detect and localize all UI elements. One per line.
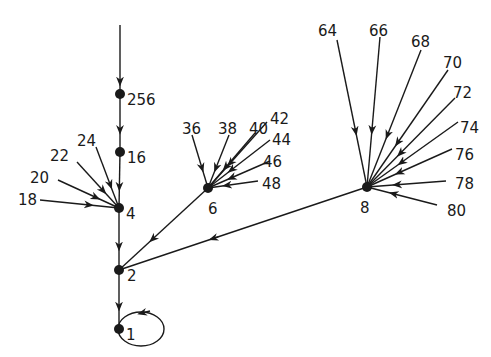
label-72: 72 (453, 84, 472, 102)
label-38: 38 (218, 120, 237, 138)
edges-layer (40, 25, 458, 329)
arrow-icon (102, 190, 103, 191)
label-80: 80 (447, 202, 466, 220)
label-18: 18 (18, 191, 37, 209)
arrow-icon (355, 128, 356, 131)
label-70: 70 (443, 54, 462, 72)
label-36: 36 (182, 120, 201, 138)
arrow-icon (232, 177, 233, 178)
arrow-icon (95, 197, 96, 198)
label-6: 6 (208, 200, 218, 218)
self-loop-layer (118, 311, 164, 346)
arrow-icon (400, 151, 402, 153)
label-8: 8 (360, 199, 370, 217)
edge-22-to-4 (77, 162, 119, 208)
edge-16-to-4 (119, 152, 120, 208)
edge-36-to-6 (192, 135, 208, 188)
node-256 (115, 89, 125, 99)
label-40: 40 (249, 120, 268, 138)
label-2: 2 (127, 267, 137, 285)
label-76: 76 (455, 146, 474, 164)
label-66: 66 (369, 22, 388, 40)
label-68: 68 (411, 33, 430, 51)
label-24: 24 (77, 132, 96, 150)
node-1 (114, 324, 124, 334)
edge-8-to-2 (119, 187, 367, 270)
node-8 (362, 182, 372, 192)
arrow-icon (153, 237, 155, 239)
label-22: 22 (50, 147, 69, 165)
self-loop-1 (118, 312, 164, 346)
label-16: 16 (127, 149, 146, 167)
node-2 (114, 265, 124, 275)
label-20: 20 (30, 169, 49, 187)
node-4 (114, 203, 124, 213)
edge-18-to-4 (40, 200, 119, 208)
edge-72-to-8 (367, 98, 455, 187)
label-64: 64 (318, 22, 337, 40)
arrow-icon (402, 161, 404, 162)
graph-canvas: 2561642168182022243638404244464864666870… (0, 0, 491, 357)
label-1: 1 (126, 326, 136, 344)
node-16 (115, 147, 125, 157)
edge-64-to-8 (337, 40, 367, 187)
label-78: 78 (455, 175, 474, 193)
edge-74-to-8 (367, 122, 458, 187)
label-256: 256 (127, 91, 156, 109)
label-4: 4 (126, 205, 136, 223)
arrow-icon (399, 172, 401, 173)
edge-6-to-2 (119, 188, 208, 270)
number-graph-diagram: 2561642168182022243638404244464864666870… (0, 0, 491, 357)
label-42: 42 (270, 110, 289, 128)
label-48: 48 (262, 175, 281, 193)
arrow-icon (232, 169, 233, 170)
node-6 (203, 183, 213, 193)
label-74: 74 (460, 119, 479, 137)
edge-66-to-8 (367, 37, 380, 187)
arrow-icon (388, 132, 389, 135)
label-46: 46 (263, 153, 282, 171)
nodes-layer (114, 89, 372, 334)
arrow-icon (398, 140, 400, 142)
arrow-icon (230, 162, 231, 163)
arrow-icon (213, 237, 218, 239)
label-44: 44 (272, 131, 291, 149)
edge-80-to-8 (367, 187, 437, 205)
